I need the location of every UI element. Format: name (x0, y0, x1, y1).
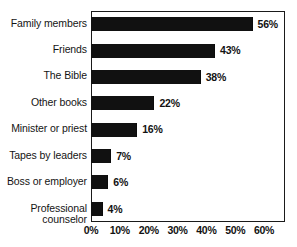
category-axis-labels: Family membersFriendsThe BibleOther book… (0, 11, 87, 222)
bar-value-label: 7% (116, 151, 131, 162)
bar (91, 175, 108, 189)
value-axis-tick: 50% (225, 224, 245, 236)
category-label: Friends (0, 44, 87, 56)
value-axis-tick: 40% (196, 224, 216, 236)
bar-row: 4% (91, 196, 285, 222)
bar-value-label: 16% (142, 124, 162, 135)
category-label: Family members (0, 18, 87, 30)
bar-value-label: 56% (258, 19, 278, 30)
bar (91, 17, 253, 31)
value-axis-tick: 60% (254, 224, 274, 236)
category-label: Minister or priest (0, 123, 87, 135)
bar-series: 56%43%38%22%16%7%6%4% (91, 11, 285, 222)
category-label: Professional counselor (0, 203, 87, 226)
bar-row: 6% (91, 169, 285, 195)
bar-row: 56% (91, 11, 285, 37)
bar-value-label: 6% (113, 177, 128, 188)
category-label: Other books (0, 97, 87, 109)
bar (91, 96, 154, 110)
bar-value-label: 43% (220, 45, 240, 56)
category-label: The Bible (0, 70, 87, 82)
category-label: Boss or employer (0, 176, 87, 188)
value-axis-tick: 0% (84, 224, 99, 236)
bar-row: 38% (91, 64, 285, 90)
bar-row: 22% (91, 90, 285, 116)
horizontal-bar-chart: Family membersFriendsThe BibleOther book… (0, 0, 297, 247)
bar-value-label: 22% (159, 98, 179, 109)
category-label: Tapes by leaders (0, 150, 87, 162)
value-axis-tick: 30% (167, 224, 187, 236)
bar (91, 202, 103, 216)
bar-value-label: 4% (108, 204, 123, 215)
value-axis-tick: 10% (110, 224, 130, 236)
bar (91, 44, 215, 58)
bar-value-label: 38% (206, 72, 226, 83)
bar (91, 149, 111, 163)
bar-row: 7% (91, 143, 285, 169)
bar-row: 16% (91, 117, 285, 143)
value-axis-tick-labels: 0%10%20%30%40%50%60% (91, 224, 291, 240)
bar (91, 123, 137, 137)
bar (91, 70, 201, 84)
value-axis-tick: 20% (139, 224, 159, 236)
bar-row: 43% (91, 37, 285, 63)
